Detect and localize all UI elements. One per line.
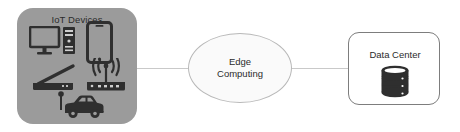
edge-to-datacenter-connector (290, 68, 349, 69)
database-icon (380, 65, 410, 102)
diagram-canvas: IoT Devices (0, 0, 460, 132)
desktop-computer-icon (29, 26, 77, 56)
wifi-router-icon (83, 58, 129, 94)
iot-devices-label: IoT Devices (17, 14, 137, 25)
iot-devices-node[interactable]: IoT Devices (17, 8, 137, 124)
data-center-node[interactable]: Data Center (348, 32, 440, 105)
edge-computing-node[interactable]: Edge Computing (188, 33, 292, 103)
connected-car-icon (52, 90, 108, 122)
edge-computing-label: Edge Computing (217, 56, 263, 80)
data-center-label: Data Center (349, 49, 441, 60)
router-antenna-icon (29, 63, 81, 91)
iot-to-edge-connector (137, 68, 190, 69)
